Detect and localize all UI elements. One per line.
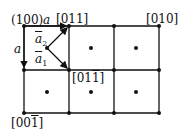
mid-label: [011] xyxy=(72,72,104,84)
bottom-left-label: [001] xyxy=(11,117,43,129)
vector-a1-label: a1 xyxy=(35,53,47,70)
origin-label: (100) xyxy=(11,14,43,26)
top-right-label: [010] xyxy=(146,13,178,25)
top-mid-label: [011] xyxy=(56,13,88,25)
a-horizontal-label: a xyxy=(43,14,50,26)
a-vertical-label: a xyxy=(14,43,21,55)
vector-a2-label: a2 xyxy=(35,33,47,50)
